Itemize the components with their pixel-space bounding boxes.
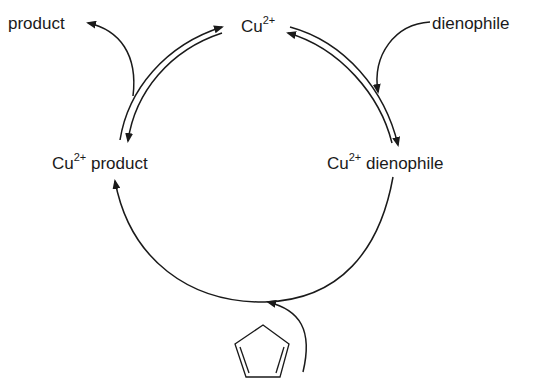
arrow-product-release <box>88 23 134 96</box>
catalyst-label: Cu2+ <box>241 16 275 35</box>
cyclopentadiene-structure <box>235 325 289 377</box>
dienophile-input-label: dienophile <box>432 15 510 32</box>
arrow-lower-arc <box>115 177 393 302</box>
arrow-dienophile-complex-to-catalyst <box>288 33 392 143</box>
arrow-catalyst-to-product-complex <box>128 33 222 141</box>
cycle-arrows <box>0 0 546 392</box>
arrow-catalyst-to-dienophile-complex <box>290 27 398 145</box>
dienophile-complex-label: Cu2+ dienophile <box>327 153 444 172</box>
arrow-dienophile-input <box>377 22 430 92</box>
arrow-product-complex-to-catalyst <box>120 27 222 140</box>
product-output-label: product <box>8 15 65 32</box>
product-complex-label: Cu2+ product <box>52 153 148 172</box>
arrow-diene-input <box>268 302 306 372</box>
